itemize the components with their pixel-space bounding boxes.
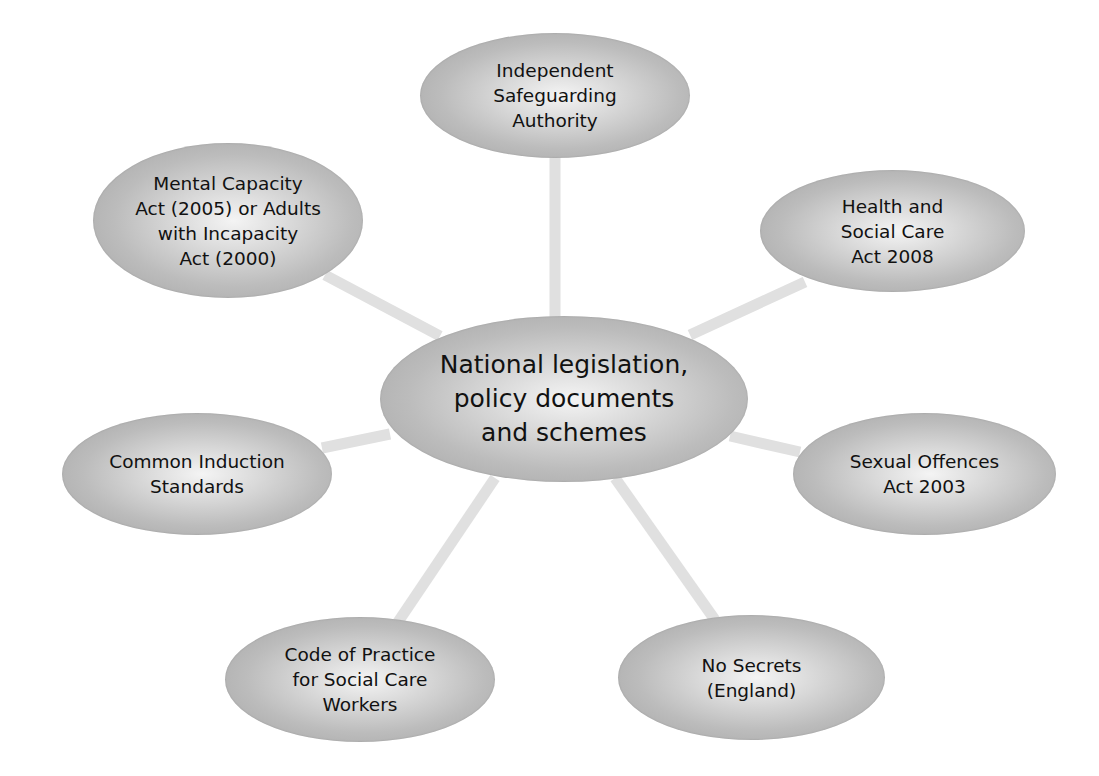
node-center-national-legislation: National legislation, policy documents a… <box>380 316 748 482</box>
node-label: Health and Social Care Act 2008 <box>841 194 945 269</box>
node-label: Independent Safeguarding Authority <box>493 58 616 133</box>
node-mental-capacity-act: Mental Capacity Act (2005) or Adults wit… <box>93 143 363 298</box>
node-common-induction-standards: Common Induction Standards <box>62 413 332 535</box>
node-sexual-offences-act: Sexual Offences Act 2003 <box>793 413 1056 535</box>
node-code-of-practice: Code of Practice for Social Care Workers <box>225 617 495 742</box>
connector-bottom-left <box>398 478 495 622</box>
node-label: Sexual Offences Act 2003 <box>850 449 999 499</box>
node-health-and-social-care-act: Health and Social Care Act 2008 <box>760 170 1025 292</box>
node-label: Code of Practice for Social Care Workers <box>285 642 436 717</box>
connector-top-right <box>690 282 805 335</box>
legislation-diagram: Independent Safeguarding Authority Healt… <box>0 0 1099 776</box>
node-independent-safeguarding-authority: Independent Safeguarding Authority <box>420 33 690 158</box>
connector-top-left <box>325 275 440 336</box>
node-no-secrets: No Secrets (England) <box>618 615 885 740</box>
connector-right <box>730 436 800 452</box>
node-label: No Secrets (England) <box>702 653 802 703</box>
connector-bottom-right <box>615 478 715 620</box>
connector-left <box>322 434 390 448</box>
node-label: Common Induction Standards <box>109 449 284 499</box>
node-label: Mental Capacity Act (2005) or Adults wit… <box>135 171 321 271</box>
center-label: National legislation, policy documents a… <box>440 348 688 450</box>
